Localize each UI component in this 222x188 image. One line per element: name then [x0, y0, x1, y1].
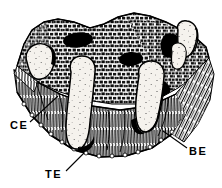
histology-diagram: CE TE BE [0, 0, 222, 188]
label-te: TE [45, 168, 62, 180]
leader-line-te [66, 153, 84, 171]
figure-root: CE TE BE [0, 0, 222, 188]
label-be: BE [189, 145, 207, 157]
label-ce: CE [10, 119, 28, 131]
taste-bud-right-edge [171, 43, 186, 69]
annotation-te: TE [45, 153, 84, 180]
